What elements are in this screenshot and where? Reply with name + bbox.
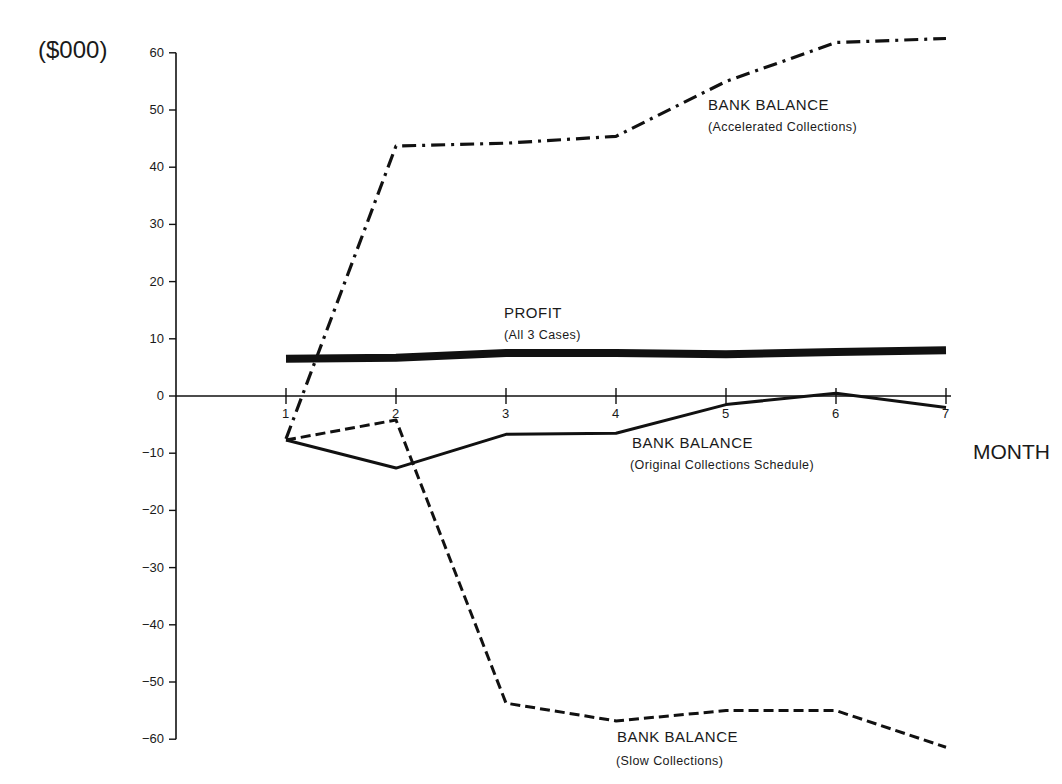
- series-line-1: [286, 350, 946, 359]
- series-line-3: [286, 420, 946, 747]
- series-line-2: [286, 393, 946, 468]
- series-line-0: [286, 39, 946, 439]
- line-chart-plot: [0, 0, 1062, 784]
